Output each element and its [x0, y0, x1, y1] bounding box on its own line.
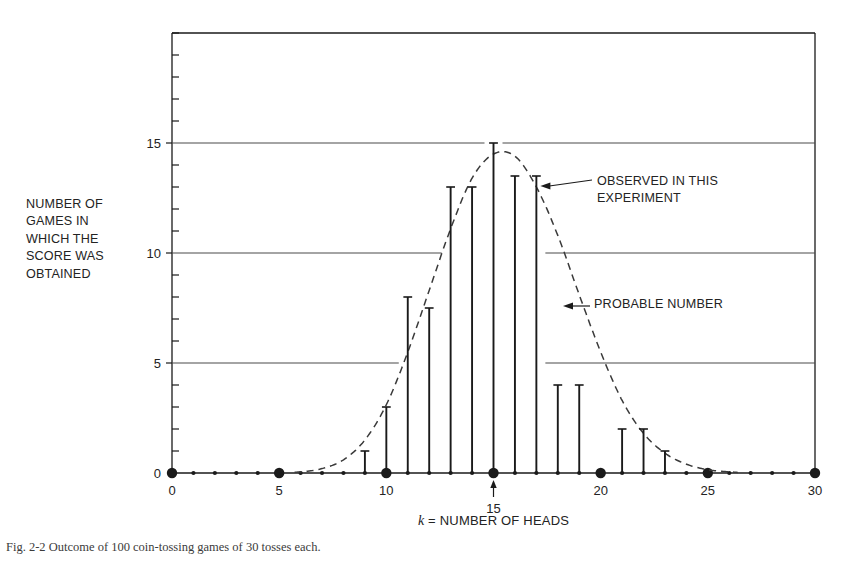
figure-caption: Fig. 2-2 Outcome of 100 coin-tossing gam…	[6, 540, 706, 555]
x-axis-major-dot-25	[703, 468, 713, 478]
x-tick-label-30: 30	[808, 483, 822, 498]
y-tick-label-5: 5	[154, 356, 161, 371]
x-axis-dot-4	[256, 471, 260, 475]
y-tick-label-15: 15	[147, 136, 161, 151]
annotation-observed-arrowhead	[540, 183, 550, 190]
x-axis-dot-8	[341, 471, 345, 475]
x-tick-label-25: 25	[701, 483, 715, 498]
y-axis-label: NUMBER OF GAMES IN WHICH THE SCORE WAS O…	[26, 196, 158, 283]
x-axis-major-dot-30	[810, 468, 820, 478]
x-tick-label-20: 20	[593, 483, 607, 498]
x-tick-label-5: 5	[276, 483, 283, 498]
x-axis-dot-27	[749, 471, 753, 475]
x-tick-label-0: 0	[168, 483, 175, 498]
x-axis-major-dot-20	[595, 468, 605, 478]
annotation-observed-leader	[549, 180, 592, 186]
annotation-observed: OBSERVED IN THIS EXPERIMENT	[597, 173, 718, 207]
x-axis-dot-3	[234, 471, 238, 475]
x-axis-major-dot-0	[167, 468, 177, 478]
y-tick-label-0: 0	[154, 466, 161, 481]
x-axis-dot-1	[191, 471, 195, 475]
x-axis-label: k = NUMBER OF HEADS	[172, 513, 815, 529]
x-axis-label-text: = NUMBER OF HEADS	[424, 513, 569, 528]
x-axis-dot-28	[770, 471, 774, 475]
x-axis-dot-29	[791, 471, 795, 475]
x-axis-dot-7	[320, 471, 324, 475]
x-label-15-arrow-head	[490, 480, 496, 488]
annotation-probable-arrowhead	[563, 303, 573, 310]
x-axis-dot-2	[213, 471, 217, 475]
annotation-probable: PROBABLE NUMBER	[594, 296, 723, 313]
x-tick-label-10: 10	[379, 483, 393, 498]
x-axis-major-dot-5	[274, 468, 284, 478]
x-axis-dot-24	[684, 471, 688, 475]
figure-coin-toss-distribution: NUMBER OF GAMES IN WHICH THE SCORE WAS O…	[0, 0, 842, 565]
